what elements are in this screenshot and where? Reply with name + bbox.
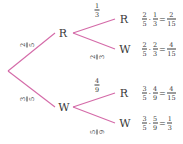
numerator: 2 <box>20 43 27 47</box>
prob-w-w: 5 9 <box>90 130 105 135</box>
numerator: 2 <box>142 42 146 49</box>
numerator: 2 <box>153 42 157 49</box>
fraction: 23 <box>153 42 158 57</box>
fraction: 35 <box>142 116 147 131</box>
prob-r-r: 1 3 <box>95 3 100 18</box>
denominator: 3 <box>153 50 157 57</box>
numerator: 4 <box>95 78 99 85</box>
denominator: 15 <box>167 50 175 57</box>
branch-r-w <box>73 33 115 49</box>
branch-w-r <box>73 93 115 107</box>
denominator: 3 <box>153 20 157 27</box>
calc-w-r: 35 · 49 = 415 <box>142 86 176 101</box>
denominator: 3 <box>95 11 99 18</box>
calc-r-w: 25 · 23 = 415 <box>142 42 176 57</box>
node-r-r: R <box>120 14 128 25</box>
fraction: 25 <box>142 42 147 57</box>
numerator: 2 <box>169 12 173 19</box>
equals-sign: = <box>159 15 167 24</box>
denominator: 9 <box>153 94 157 101</box>
prob-root-r: 2 5 <box>20 43 35 48</box>
denominator: 5 <box>142 124 146 131</box>
prob-w-r: 4 9 <box>95 78 100 93</box>
denominator: 5 <box>28 97 35 101</box>
times-sign: · <box>148 45 152 54</box>
numerator: 2 <box>90 55 97 59</box>
fraction: 49 <box>153 86 158 101</box>
numerator: 3 <box>20 97 27 101</box>
node-w: W <box>58 102 69 113</box>
equals-sign: = <box>159 89 167 98</box>
branch-r-r <box>73 19 115 33</box>
times-sign: · <box>148 15 152 24</box>
equals-sign: = <box>159 45 167 54</box>
equals-sign: = <box>159 119 167 128</box>
numerator: 1 <box>95 3 99 10</box>
fraction: 415 <box>167 42 175 57</box>
denominator: 5 <box>142 94 146 101</box>
calc-w-w: 35 · 59 = 13 <box>142 116 172 131</box>
denominator: 9 <box>153 124 157 131</box>
times-sign: · <box>148 89 152 98</box>
numerator: 5 <box>153 116 157 123</box>
branch-w-w <box>73 107 115 123</box>
denominator: 15 <box>167 20 175 27</box>
numerator: 5 <box>90 130 97 134</box>
numerator: 3 <box>142 116 146 123</box>
fraction: 35 <box>142 86 147 101</box>
denominator: 15 <box>167 94 175 101</box>
numerator: 4 <box>169 86 173 93</box>
numerator: 2 <box>142 12 146 19</box>
denominator: 5 <box>28 43 35 47</box>
numerator: 4 <box>153 86 157 93</box>
fraction: 13 <box>167 116 172 131</box>
denominator: 5 <box>142 50 146 57</box>
denominator: 5 <box>142 20 146 27</box>
prob-root-w: 3 5 <box>20 97 35 102</box>
denominator: 3 <box>98 55 105 59</box>
node-w-r: R <box>120 88 128 99</box>
numerator: 4 <box>169 42 173 49</box>
fraction: 13 <box>153 12 158 27</box>
fraction: 25 <box>142 12 147 27</box>
times-sign: · <box>148 119 152 128</box>
branch-root-w <box>8 71 55 107</box>
numerator: 3 <box>142 86 146 93</box>
calc-r-r: 25 · 13 = 215 <box>142 12 176 27</box>
fraction: 215 <box>167 12 175 27</box>
fraction: 415 <box>167 86 175 101</box>
fraction: 59 <box>153 116 158 131</box>
node-r-w: W <box>119 44 130 55</box>
prob-r-w: 2 3 <box>90 55 105 60</box>
branch-root-r <box>8 33 55 71</box>
numerator: 1 <box>153 12 157 19</box>
node-r: R <box>59 28 67 39</box>
denominator: 9 <box>95 86 99 93</box>
denominator: 9 <box>98 130 105 134</box>
numerator: 1 <box>168 116 172 123</box>
denominator: 3 <box>168 124 172 131</box>
node-w-w: W <box>119 118 130 129</box>
